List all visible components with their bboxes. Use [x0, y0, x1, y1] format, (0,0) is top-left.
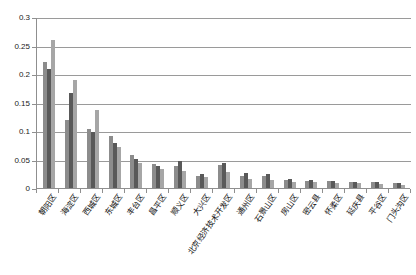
x-axis-category-label: 怀柔区 — [324, 193, 344, 217]
bar — [313, 182, 317, 188]
bar-group — [147, 18, 169, 188]
x-axis-category-label: 密云县 — [302, 193, 322, 217]
x-axis-category-label: 平谷区 — [368, 193, 388, 217]
x-axis-category-label: 丰台区 — [126, 193, 146, 217]
bar-group — [322, 18, 344, 188]
bar-group — [169, 18, 191, 188]
bar — [270, 180, 274, 188]
bar-group — [191, 18, 213, 188]
bar — [292, 182, 296, 188]
bar-group — [213, 18, 235, 188]
bar — [117, 147, 121, 188]
bar — [204, 177, 208, 188]
x-axis-category-label: 延庆县 — [346, 193, 366, 217]
x-axis-category-label: 朝阳区 — [38, 193, 58, 217]
x-axis-category-label: 通州区 — [236, 193, 256, 217]
bar — [95, 110, 99, 188]
bar — [73, 80, 77, 188]
bar-group — [104, 18, 126, 188]
bar — [379, 184, 383, 188]
bar-group — [301, 18, 323, 188]
bar — [401, 185, 405, 188]
bar-group — [82, 18, 104, 188]
bar — [335, 183, 339, 188]
y-axis-tick-label: 0.15 — [14, 100, 30, 108]
bar-group — [126, 18, 148, 188]
x-axis-category-label: 房山区 — [280, 193, 300, 217]
bar-series-container — [37, 18, 411, 188]
y-axis-tick-label: 0.3 — [19, 14, 30, 22]
x-axis-category-label: 大兴区 — [192, 193, 212, 217]
y-axis-tick-label: 0.2 — [19, 71, 30, 79]
bar-chart: 00.050.10.150.20.250.3 朝阳区海淀区西城区东城区丰台区昌平… — [0, 0, 416, 275]
bar-group — [235, 18, 257, 188]
x-axis-category-label: 门头沟区 — [386, 193, 411, 224]
x-axis-category-label: 东城区 — [104, 193, 124, 217]
bar-group — [366, 18, 388, 188]
x-axis-category-label: 顺义区 — [170, 193, 190, 217]
x-axis-category-label: 西城区 — [82, 193, 102, 217]
x-axis-category-label: 北京经济技术开发区 — [187, 193, 235, 257]
bar-group — [38, 18, 60, 188]
bar-group — [60, 18, 82, 188]
x-axis-labels: 朝阳区海淀区西城区东城区丰台区昌平区顺义区大兴区北京经济技术开发区通州区石景山区… — [36, 193, 416, 275]
y-axis: 00.050.10.150.20.250.3 — [0, 18, 36, 189]
bar — [182, 171, 186, 188]
y-axis-tick-label: 0 — [26, 185, 30, 193]
bar-group — [344, 18, 366, 188]
bar — [248, 179, 252, 188]
bar — [357, 183, 361, 188]
bar — [226, 172, 230, 188]
bar-group — [279, 18, 301, 188]
x-axis-category-label: 海淀区 — [60, 193, 80, 217]
bar-group — [388, 18, 410, 188]
y-axis-tick-label: 0.05 — [14, 157, 30, 165]
bar-group — [257, 18, 279, 188]
x-axis-category-label: 石景山区 — [254, 193, 279, 224]
y-axis-tick-label: 0.1 — [19, 128, 30, 136]
x-axis-category-label: 昌平区 — [148, 193, 168, 217]
bar — [160, 169, 164, 188]
bar — [51, 40, 55, 188]
bar — [138, 163, 142, 189]
plot-area — [36, 18, 410, 189]
y-axis-tick-label: 0.25 — [14, 43, 30, 51]
